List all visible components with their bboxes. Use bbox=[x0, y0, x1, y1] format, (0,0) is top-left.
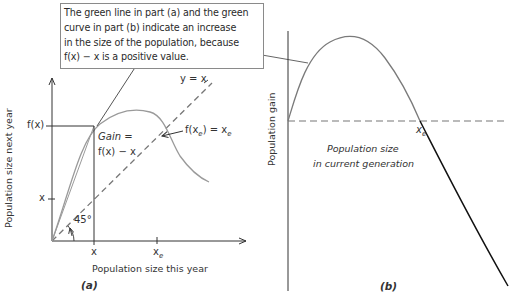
panel-a-x-axis-label: Population size this year bbox=[92, 263, 208, 274]
eq-sub2: e bbox=[227, 130, 231, 138]
panel-b-x-axis-label-line-2: in current generation bbox=[313, 158, 414, 169]
gain-curve-positive bbox=[288, 36, 420, 121]
y-tick-label-fx: f(x) bbox=[27, 119, 44, 130]
panel-b-y-axis-label: Population gain bbox=[266, 93, 277, 166]
panel-a-tag: (a) bbox=[81, 279, 98, 291]
equilibrium-label: f(xe) = xe bbox=[185, 124, 232, 138]
xe-sub: e bbox=[159, 252, 163, 260]
angle-label: 45° bbox=[74, 214, 92, 225]
equilibrium-pointer bbox=[162, 131, 183, 136]
gain-curve-negative bbox=[420, 121, 508, 286]
panel-a-y-axis-label: Population size next year bbox=[3, 108, 14, 228]
callout-leader-b bbox=[262, 55, 308, 63]
identity-line-label: y = x bbox=[180, 73, 207, 84]
y-tick-label-x: x bbox=[39, 192, 45, 203]
callout-line-1: The green line in part (a) and the green bbox=[64, 6, 260, 21]
callout-box: The green line in part (a) and the green… bbox=[60, 3, 264, 69]
eq-f: f(x bbox=[185, 124, 198, 135]
callout-line-2: curve in part (b) indicate an increase bbox=[64, 21, 260, 36]
panel-b-x-axis-label-line-1: Population size bbox=[327, 143, 399, 154]
x-tick-label-xe: xe bbox=[153, 246, 163, 260]
b-xe-sub: e bbox=[422, 130, 426, 138]
gain-label-line-2: f(x) − x bbox=[98, 146, 136, 157]
callout-line-3: in the size of the population, because bbox=[64, 36, 260, 51]
callout-line-4: f(x) − x is a positive value. bbox=[64, 50, 260, 65]
gain-leader bbox=[97, 63, 138, 126]
panel-b-tag: (b) bbox=[380, 280, 397, 292]
panel-b-xe-label: xe bbox=[416, 124, 426, 138]
gain-label-line-1: Gain = bbox=[98, 131, 133, 142]
x-tick-label-x: x bbox=[91, 246, 97, 257]
eq-mid: ) = x bbox=[203, 124, 228, 135]
